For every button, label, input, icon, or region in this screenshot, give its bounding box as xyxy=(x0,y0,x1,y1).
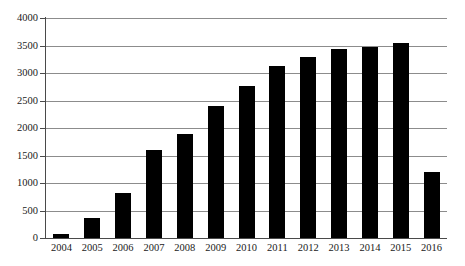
x-axis-label: 2004 xyxy=(51,241,72,255)
gridline-3500 xyxy=(46,46,447,47)
bar-2013 xyxy=(331,49,347,238)
x-axis-label: 2014 xyxy=(359,241,380,255)
y-axis-tick-2000 xyxy=(40,128,45,129)
bar-2009 xyxy=(208,106,224,238)
x-axis-tick-labels: 2004200520062007200820092010201120122013… xyxy=(46,241,447,259)
y-axis-tick-2500 xyxy=(40,101,45,102)
bar-2004 xyxy=(53,234,69,238)
y-axis-tick-0 xyxy=(40,238,45,239)
x-axis-label: 2009 xyxy=(205,241,226,255)
x-axis-label: 2016 xyxy=(421,241,442,255)
gridline-0 xyxy=(46,238,447,239)
x-axis-label: 2005 xyxy=(82,241,103,255)
gridline-4000 xyxy=(46,18,447,19)
x-axis-label: 2015 xyxy=(390,241,411,255)
bar-2016 xyxy=(424,172,440,238)
y-axis-label: 0 xyxy=(2,233,38,244)
bar-2015 xyxy=(393,43,409,238)
bar-2007 xyxy=(146,150,162,238)
y-axis-tick-1500 xyxy=(40,156,45,157)
bar-2011 xyxy=(269,66,285,238)
x-axis-label: 2007 xyxy=(143,241,164,255)
bar-2012 xyxy=(300,57,316,238)
gridline-3000 xyxy=(46,73,447,74)
x-axis-label: 2010 xyxy=(236,241,257,255)
y-axis-tick-1000 xyxy=(40,183,45,184)
y-axis-label: 3500 xyxy=(2,40,38,51)
bar-2006 xyxy=(115,193,131,238)
x-axis-label: 2006 xyxy=(113,241,134,255)
plot-area xyxy=(46,18,447,238)
y-axis-label: 2000 xyxy=(2,123,38,134)
y-axis-label: 1500 xyxy=(2,150,38,161)
bar-chart: 05001000150020002500300035004000 2004200… xyxy=(0,0,465,266)
bar-2008 xyxy=(177,134,193,239)
y-axis-tick-4000 xyxy=(40,18,45,19)
y-axis-label: 500 xyxy=(2,205,38,216)
y-axis-tick-labels: 05001000150020002500300035004000 xyxy=(0,18,38,238)
y-axis-tick-3000 xyxy=(40,73,45,74)
y-axis-label: 3000 xyxy=(2,68,38,79)
bar-2010 xyxy=(239,86,255,238)
x-axis-label: 2011 xyxy=(267,241,288,255)
y-axis-label: 4000 xyxy=(2,13,38,24)
y-axis-tick-3500 xyxy=(40,46,45,47)
y-axis-label: 1000 xyxy=(2,178,38,189)
y-axis-label: 2500 xyxy=(2,95,38,106)
x-axis-label: 2013 xyxy=(329,241,350,255)
x-axis-label: 2008 xyxy=(174,241,195,255)
bar-2014 xyxy=(362,47,378,238)
x-axis-label: 2012 xyxy=(298,241,319,255)
bar-2005 xyxy=(84,218,100,238)
y-axis-tick-500 xyxy=(40,211,45,212)
